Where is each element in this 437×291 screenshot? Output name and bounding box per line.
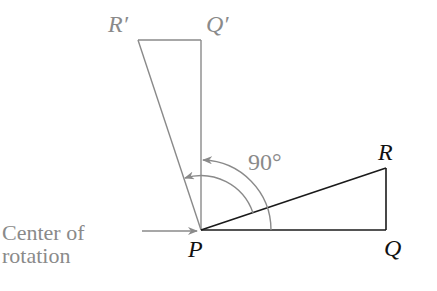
label-q-prime: Q′ bbox=[206, 11, 229, 37]
rotation-diagram: R′ Q′ R Q P 90° Center of rotation bbox=[0, 0, 437, 291]
side-rp bbox=[201, 168, 386, 230]
angle-label: 90° bbox=[248, 149, 282, 175]
label-p: P bbox=[187, 236, 203, 262]
side-r-prime-p bbox=[138, 40, 201, 230]
diagram-canvas: R′ Q′ R Q P 90° Center of rotation bbox=[0, 0, 437, 291]
center-label-line1: Center of bbox=[2, 220, 85, 245]
label-q: Q bbox=[384, 235, 401, 261]
angle-arc-inner-arrow-icon bbox=[185, 176, 253, 213]
label-r: R bbox=[377, 139, 393, 165]
rotated-triangle bbox=[138, 40, 201, 230]
center-label-line2: rotation bbox=[2, 243, 70, 268]
label-r-prime: R′ bbox=[107, 11, 129, 37]
original-triangle bbox=[201, 168, 386, 230]
